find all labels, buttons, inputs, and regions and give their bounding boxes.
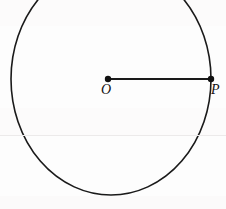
geometry-figure: O P	[0, 0, 226, 209]
scan-artifact-line	[0, 135, 226, 136]
label-center-o: O	[101, 83, 111, 97]
label-point-p: P	[211, 83, 220, 97]
circle-outline	[11, 0, 211, 195]
diagram-canvas	[0, 0, 226, 209]
